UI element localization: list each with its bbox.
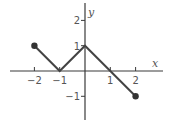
closed-endpoint bbox=[31, 43, 37, 49]
chart: x y −2−11221−1 bbox=[0, 0, 175, 128]
y-tick-label: 1 bbox=[74, 41, 80, 52]
x-tick-label: −2 bbox=[27, 75, 42, 86]
x-tick-label: −1 bbox=[52, 75, 67, 86]
x-tick-label: 1 bbox=[107, 75, 113, 86]
x-axis-label: x bbox=[152, 57, 159, 70]
y-axis-label: y bbox=[87, 6, 95, 19]
y-tick-label: 2 bbox=[74, 15, 80, 26]
x-tick-label: 2 bbox=[132, 75, 138, 86]
y-tick-label: −1 bbox=[65, 91, 80, 102]
closed-endpoint bbox=[132, 93, 138, 99]
